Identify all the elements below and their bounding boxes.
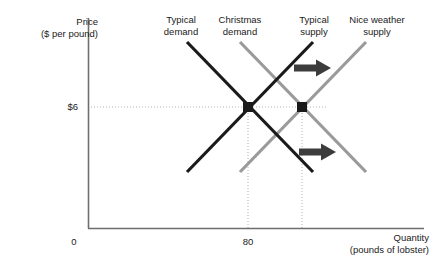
curve-label-line2: demand <box>223 26 257 37</box>
curve-label-line2: demand <box>164 26 198 37</box>
y-axis-title-unit: ($ per pound) <box>41 28 98 39</box>
curve-label-line1: Typical <box>166 14 196 25</box>
demand-shift-arrow <box>299 144 336 161</box>
curve-label-christmas-demand: Christmas demand <box>207 14 273 37</box>
curve-label-line2: supply <box>363 26 390 37</box>
supply-shift-arrow <box>294 60 331 77</box>
x-axis-title: Quantity (pounds of lobster) <box>291 232 429 255</box>
curve-label-line1: Nice weather <box>349 14 404 25</box>
y-axis-tick-label-6: $6 <box>48 101 78 113</box>
x-axis-title-main: Quantity <box>394 232 429 243</box>
guide-lines <box>88 107 327 228</box>
curve-label-line1: Christmas <box>219 14 262 25</box>
axis-origin-label: 0 <box>66 236 82 248</box>
curve-label-nice-weather-supply: Nice weather supply <box>335 14 419 37</box>
y-axis-title-main: Price <box>76 16 98 27</box>
curve-label-typical-supply: Typical supply <box>286 14 342 37</box>
curve-label-line1: Typical <box>299 14 329 25</box>
x-axis-tick-label-80: 80 <box>232 236 264 248</box>
curve-label-typical-demand: Typical demand <box>152 14 210 37</box>
equilibrium-dot-typical <box>243 102 253 112</box>
y-axis-title: Price ($ per pound) <box>2 16 98 39</box>
x-axis-title-unit: (pounds of lobster) <box>350 244 429 255</box>
equilibrium-dot-shifted <box>297 102 307 112</box>
curve-label-line2: supply <box>300 26 327 37</box>
supply-demand-figure: Price ($ per pound) Quantity (pounds of … <box>0 0 431 272</box>
